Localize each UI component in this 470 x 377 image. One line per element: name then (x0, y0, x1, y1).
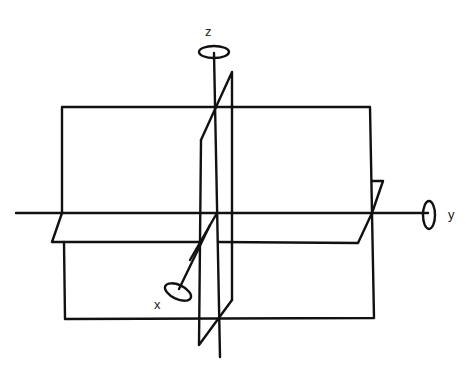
x-axis (179, 225, 210, 289)
x-axis-ring-icon (162, 280, 193, 305)
x-axis-label: x (154, 297, 161, 312)
z-axis-label: z (205, 24, 212, 39)
coordinate-planes-diagram: z y x (0, 0, 470, 377)
y-axis-label: y (448, 207, 455, 222)
xy-plane (52, 213, 200, 242)
yz-plane-diagonal (201, 107, 216, 140)
y-axis-ring-icon (423, 201, 435, 229)
